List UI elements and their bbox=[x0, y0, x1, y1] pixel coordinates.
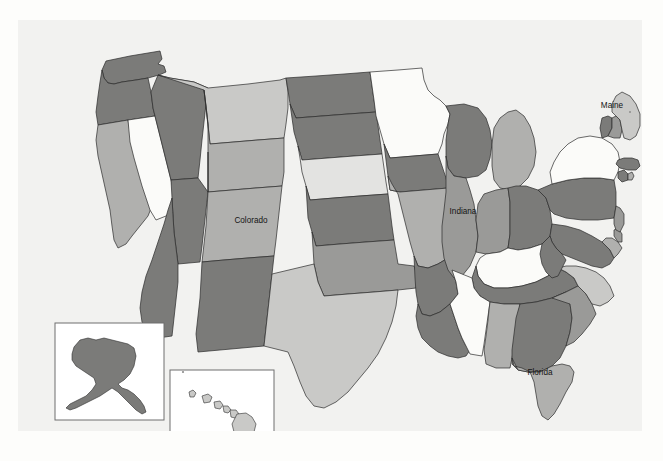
state-massachusetts[interactable] bbox=[616, 158, 640, 170]
state-north-dakota[interactable] bbox=[286, 72, 376, 118]
state-connecticut[interactable] bbox=[618, 170, 628, 182]
state-label-colorado: Colorado bbox=[234, 216, 268, 225]
state-indiana[interactable] bbox=[476, 188, 510, 254]
speck-mark bbox=[629, 111, 631, 113]
us-choropleth-map: ColoradoIndianaMaineFlorida bbox=[18, 20, 642, 431]
state-minnesota[interactable] bbox=[370, 68, 450, 158]
state-new-jersey[interactable] bbox=[614, 206, 624, 232]
map-figure: ColoradoIndianaMaineFlorida bbox=[18, 20, 642, 431]
hawaii-inset-frame bbox=[170, 370, 274, 431]
state-georgia[interactable] bbox=[512, 292, 572, 372]
state-label-maine: Maine bbox=[601, 101, 624, 110]
state-michigan[interactable] bbox=[492, 110, 536, 190]
state-new-york[interactable] bbox=[550, 136, 620, 184]
state-wisconsin[interactable] bbox=[446, 104, 492, 178]
speck-mark bbox=[182, 371, 184, 373]
state-label-indiana: Indiana bbox=[450, 207, 477, 216]
state-label-florida: Florida bbox=[527, 368, 552, 377]
state-rhode-island[interactable] bbox=[628, 172, 634, 180]
state-new-mexico[interactable] bbox=[196, 256, 274, 352]
